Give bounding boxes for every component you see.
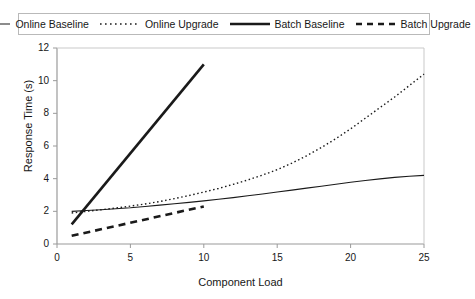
series-line [72,175,424,211]
x-tick-label: 25 [410,252,438,263]
x-tick-label: 0 [43,252,71,263]
y-tick-label: 10 [27,75,49,86]
x-tick-label: 5 [116,252,144,263]
x-tick-label: 15 [263,252,291,263]
y-tick-label: 6 [27,140,49,151]
y-tick-label: 0 [27,238,49,249]
y-tick-label: 2 [27,205,49,216]
x-axis-title: Component Load [57,276,424,288]
y-tick-label: 4 [27,173,49,184]
series-line [72,206,204,235]
series-line [72,64,204,224]
y-tick-label: 8 [27,107,49,118]
series-line [72,74,424,213]
data-series-layer [72,64,424,236]
x-tick-label: 20 [337,252,365,263]
x-tick-label: 10 [190,252,218,263]
axis-ticks [53,48,424,248]
axis-frame [57,48,424,244]
y-tick-label: 12 [27,42,49,53]
